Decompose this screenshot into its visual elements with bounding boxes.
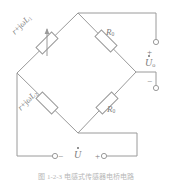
source-voltage-label: U	[74, 150, 81, 160]
resistor-R0-upper-subscript: 0	[112, 31, 115, 37]
resistor-R0-lower-label: R0	[107, 105, 115, 115]
output-positive-terminal[interactable]	[153, 39, 158, 44]
resistor-R0-upper-label: R0	[106, 28, 114, 38]
output-plus-sign: +	[147, 48, 152, 57]
source-negative-lead-wire	[17, 73, 52, 156]
source-positive-terminal[interactable]	[101, 153, 106, 158]
source-voltage-symbol: U	[74, 150, 81, 160]
output-minus-sign: −	[147, 77, 152, 86]
source-minus-sign: −	[58, 152, 63, 161]
source-positive-lead-wire	[78, 133, 137, 156]
source-plus-sign: +	[95, 152, 100, 161]
resistor-R0-lower-subscript: 0	[113, 108, 116, 114]
output-voltage-subscript: o	[152, 61, 155, 68]
output-voltage-label: Uo	[145, 58, 155, 69]
source-negative-terminal[interactable]	[52, 153, 57, 158]
figure-caption: 图 1-2-3 电感式传感器电桥电路	[0, 171, 172, 180]
output-negative-lead-wire	[136, 72, 156, 85]
output-positive-lead-wire	[78, 13, 156, 39]
output-voltage-symbol: U	[145, 58, 152, 68]
output-negative-terminal[interactable]	[153, 85, 158, 90]
circuit-diagram-figure: r+jωL1 r+jωL2 R0 R0 Uo + − U − + 图 1-2-3…	[0, 0, 172, 180]
